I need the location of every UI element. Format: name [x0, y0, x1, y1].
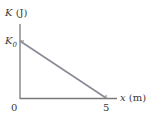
x-axis-unit: (m): [129, 92, 146, 103]
k0-sub: 0: [12, 41, 16, 49]
y-axis-var: K: [5, 7, 12, 18]
y-tick-label-k0: K0: [5, 36, 17, 50]
data-line: [20, 41, 106, 98]
y-axis-label: K (J): [5, 8, 27, 18]
x-axis-label: x (m): [120, 93, 146, 103]
x-tick-label-5: 5: [103, 103, 109, 113]
origin-label: 0: [11, 103, 17, 113]
y-axis-unit: (J): [16, 7, 28, 18]
x-axis-var: x: [120, 92, 126, 103]
